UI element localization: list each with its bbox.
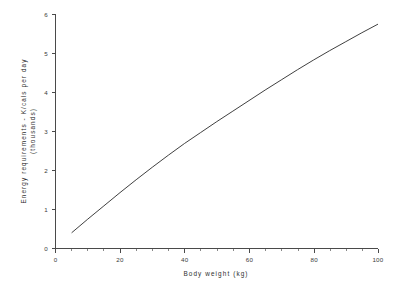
energy-requirement-line [72, 24, 378, 233]
energy-requirements-line-chart: 0 1 2 3 4 5 6 Energy requirements - K/ca… [0, 0, 393, 288]
x-axis-group: 0 20 40 60 80 100 Body weight (kg) [54, 249, 384, 279]
y-tick-label-6: 6 [44, 11, 48, 18]
x-tick-label-40: 40 [181, 256, 189, 263]
y-tick-label-0: 0 [44, 245, 48, 252]
y-tick-labels: 0 1 2 3 4 5 6 [44, 11, 48, 252]
y-axis-title-line1: Energy requirements - K/cals per day [20, 58, 28, 203]
y-tick-label-4: 4 [44, 89, 48, 96]
series-group [72, 24, 378, 233]
y-tick-label-1: 1 [44, 206, 48, 213]
x-tick-label-60: 60 [246, 256, 254, 263]
x-axis-title: Body weight (kg) [183, 270, 248, 278]
y-tick-label-5: 5 [44, 50, 48, 57]
y-axis-title-line2: (thousands) [29, 108, 37, 154]
x-tick-label-100: 100 [372, 256, 383, 263]
x-tick-labels: 0 20 40 60 80 100 [54, 256, 384, 263]
x-tick-label-20: 20 [116, 256, 124, 263]
y-axis-ticks [52, 14, 56, 248]
y-axis-title: Energy requirements - K/cals per day (th… [20, 58, 37, 203]
y-tick-label-3: 3 [44, 128, 48, 135]
y-tick-label-2: 2 [44, 167, 48, 174]
x-tick-label-0: 0 [54, 256, 58, 263]
y-axis-group: 0 1 2 3 4 5 6 Energy requirements - K/ca… [20, 11, 56, 252]
x-tick-label-80: 80 [310, 256, 318, 263]
chart-page: 0 1 2 3 4 5 6 Energy requirements - K/ca… [0, 0, 393, 288]
